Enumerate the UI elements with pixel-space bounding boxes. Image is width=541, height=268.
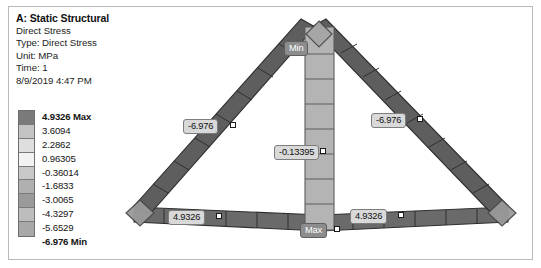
legend-label-2: 2.2862 xyxy=(42,138,91,152)
probe-pin-bottom-right xyxy=(398,212,404,218)
probe-label-center-vertical[interactable]: -0.13395 xyxy=(274,145,319,160)
header-line-unit: Unit: MPa xyxy=(16,50,109,63)
legend-label-9: -6.976 Min xyxy=(42,235,91,249)
result-header: A: Static Structural Direct Stress Type:… xyxy=(16,12,109,87)
legend-label-0: 4.9326 Max xyxy=(42,110,91,124)
probe-pin-center-vertical xyxy=(320,148,326,154)
legend-swatch-0 xyxy=(19,111,34,125)
probe-label-left-diagonal[interactable]: -6.976 xyxy=(183,119,218,134)
legend-swatch-3 xyxy=(19,153,34,167)
contour-legend: 4.9326 Max3.60942.28620.96305-0.36014-1.… xyxy=(18,110,91,249)
probe-pin-left-diagonal xyxy=(230,122,236,128)
result-viewport: A: Static Structural Direct Stress Type:… xyxy=(0,0,541,268)
header-line-timestamp: 8/9/2019 4:47 PM xyxy=(16,75,109,88)
min-marker-label[interactable]: Min xyxy=(284,41,308,56)
legend-swatch-6 xyxy=(19,194,34,208)
probe-pin-bottom-left xyxy=(216,213,222,219)
legend-label-7: -4.3297 xyxy=(42,207,91,221)
max-marker-label[interactable]: Max xyxy=(300,223,327,238)
legend-label-5: -1.6833 xyxy=(42,179,91,193)
legend-swatch-1 xyxy=(19,125,34,139)
legend-swatch-4 xyxy=(19,167,34,181)
probe-label-bottom-right[interactable]: 4.9326 xyxy=(350,209,387,224)
legend-swatch-2 xyxy=(19,139,34,153)
legend-label-3: 0.96305 xyxy=(42,152,91,166)
header-line-time: Time: 1 xyxy=(16,62,109,75)
legend-label-4: -0.36014 xyxy=(42,166,91,180)
member-right-diagonal xyxy=(312,19,508,215)
legend-swatch-7 xyxy=(19,208,34,222)
truss-model-canvas[interactable]: -6.976 -6.976 -0.13395 4.9326 4.9326 Min… xyxy=(120,10,535,262)
probe-label-bottom-left[interactable]: 4.9326 xyxy=(168,210,205,225)
legend-labels: 4.9326 Max3.60942.28620.96305-0.36014-1.… xyxy=(42,110,91,249)
page-title: A: Static Structural xyxy=(16,12,109,25)
legend-swatch-5 xyxy=(19,180,34,194)
legend-label-1: 3.6094 xyxy=(42,124,91,138)
legend-swatch-8 xyxy=(19,222,34,236)
header-line-result-name: Direct Stress xyxy=(16,25,109,38)
max-marker-pin xyxy=(334,226,340,232)
member-center-vertical xyxy=(305,27,334,230)
legend-label-6: -3.0065 xyxy=(42,193,91,207)
probe-label-right-diagonal[interactable]: -6.976 xyxy=(371,113,406,128)
probe-pin-right-diagonal xyxy=(417,116,423,122)
legend-label-8: -5.6529 xyxy=(42,221,91,235)
legend-colorbar xyxy=(18,110,35,237)
header-line-type: Type: Direct Stress xyxy=(16,37,109,50)
